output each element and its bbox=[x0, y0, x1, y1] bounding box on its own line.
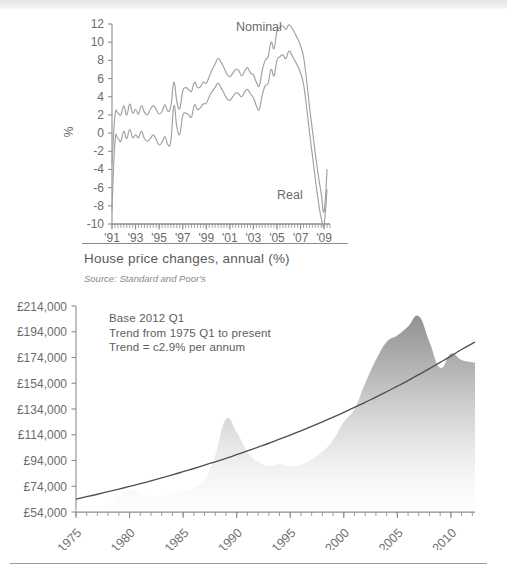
x-minor-tick-group bbox=[112, 224, 330, 228]
figure-page: 121086420-2-4-6-8-10 '91'93'95'97'99'01'… bbox=[0, 0, 507, 573]
real-series-label: Real bbox=[277, 188, 303, 202]
svg-text:1980: 1980 bbox=[108, 526, 138, 550]
svg-text:2: 2 bbox=[97, 108, 104, 122]
svg-text:0: 0 bbox=[97, 126, 104, 140]
x-tick-group-2: 19751980198519901995200020052010 bbox=[55, 512, 459, 550]
svg-text:1985: 1985 bbox=[162, 526, 192, 550]
svg-text:£54,000: £54,000 bbox=[24, 506, 68, 520]
nominal-series-label: Nominal bbox=[236, 20, 282, 34]
svg-text:£114,000: £114,000 bbox=[18, 428, 67, 442]
svg-text:1990: 1990 bbox=[215, 526, 245, 550]
svg-text:£74,000: £74,000 bbox=[24, 480, 68, 494]
nominal-series-line bbox=[112, 25, 327, 212]
svg-text:£154,000: £154,000 bbox=[17, 377, 67, 391]
page-bottom-rule bbox=[10, 563, 487, 564]
house-price-changes-chart: 121086420-2-4-6-8-10 '91'93'95'97'99'01'… bbox=[0, 8, 360, 244]
figure-caption: House price changes, annual (%) bbox=[84, 250, 414, 267]
svg-text:2000: 2000 bbox=[323, 526, 353, 550]
svg-text:10: 10 bbox=[91, 35, 105, 49]
svg-text:-6: -6 bbox=[93, 181, 104, 195]
svg-text:£94,000: £94,000 bbox=[24, 454, 68, 468]
svg-text:£134,000: £134,000 bbox=[17, 403, 67, 417]
svg-text:-2: -2 bbox=[93, 144, 104, 158]
y-tick-group-2: £214,000£194,000£174,000£154,000£134,000… bbox=[17, 300, 76, 520]
svg-text:6: 6 bbox=[97, 72, 104, 86]
svg-text:2010: 2010 bbox=[430, 526, 460, 550]
svg-text:12: 12 bbox=[91, 17, 105, 31]
svg-text:-8: -8 bbox=[93, 199, 104, 213]
svg-text:4: 4 bbox=[97, 90, 104, 104]
line-chart-svg: 121086420-2-4-6-8-10 '91'93'95'97'99'01'… bbox=[0, 8, 360, 244]
y-axis-label: % bbox=[62, 126, 76, 137]
figure-source: Source: Standard and Poor's bbox=[84, 272, 414, 285]
svg-text:£174,000: £174,000 bbox=[17, 351, 67, 365]
svg-text:£194,000: £194,000 bbox=[17, 325, 67, 339]
svg-text:-10: -10 bbox=[87, 217, 105, 231]
svg-text:1995: 1995 bbox=[269, 526, 299, 550]
svg-text:1975: 1975 bbox=[55, 526, 85, 550]
y-tick-group: 121086420-2-4-6-8-10 bbox=[87, 17, 112, 231]
svg-text:-4: -4 bbox=[93, 162, 104, 176]
caption-divider bbox=[82, 243, 348, 244]
svg-text:£214,000: £214,000 bbox=[17, 300, 67, 314]
svg-text:2005: 2005 bbox=[376, 526, 406, 550]
trend-annotation: Base 2012 Q1 Trend from 1975 Q1 to prese… bbox=[109, 311, 271, 355]
svg-text:8: 8 bbox=[97, 53, 104, 67]
